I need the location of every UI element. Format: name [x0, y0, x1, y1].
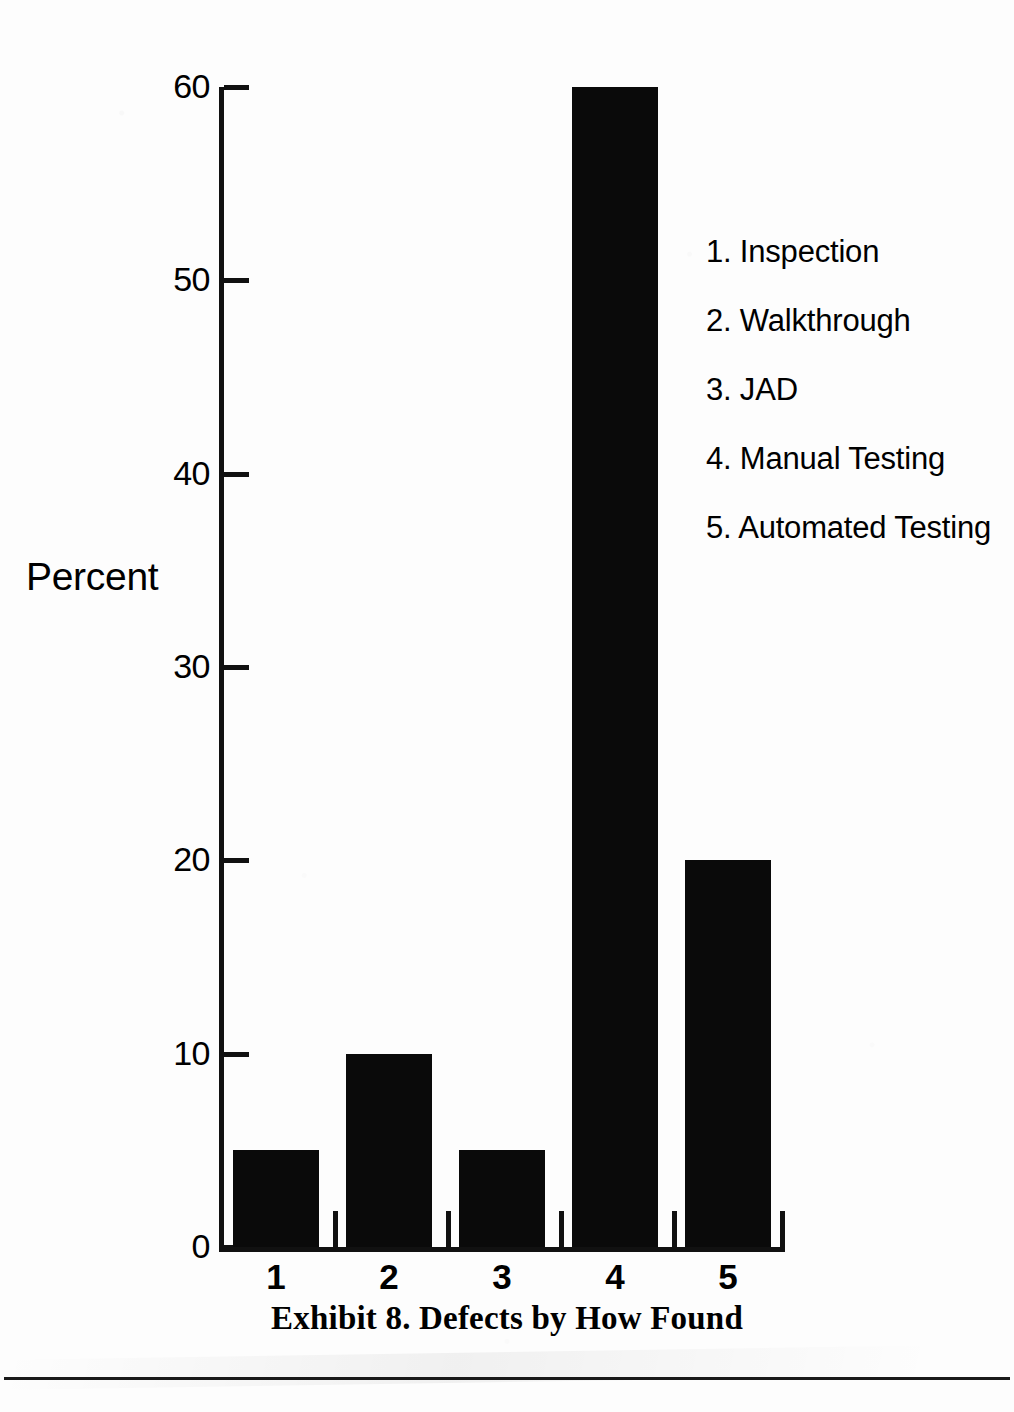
y-axis-tick-label-text: 10 — [138, 1036, 210, 1070]
y-axis-tick — [224, 472, 249, 477]
figure-caption: Exhibit 8. Defects by How Found — [0, 1298, 1014, 1338]
bar — [346, 1054, 432, 1247]
bar — [459, 1150, 545, 1247]
x-axis-tick-label: 2 — [344, 1258, 434, 1296]
y-axis-tick-label: 60 — [130, 69, 210, 103]
x-axis-line — [219, 1247, 785, 1252]
y-axis-tick — [224, 278, 249, 283]
page-footer-rule — [4, 1377, 1010, 1380]
x-axis-tick — [559, 1211, 564, 1248]
x-axis-tick-label: 4 — [570, 1258, 660, 1296]
x-axis-tick-label: 5 — [683, 1258, 773, 1296]
y-axis-tick-label-text: 40 — [138, 456, 210, 490]
x-axis-end-cap — [780, 1211, 785, 1251]
y-axis-tick-label: 10 — [130, 1036, 210, 1070]
legend-item: 1. Inspection — [706, 236, 996, 267]
y-axis-tick-label-text: 0 — [138, 1229, 210, 1263]
y-axis-tick-label-text: 20 — [138, 842, 210, 876]
y-axis-tick — [224, 85, 249, 90]
y-axis-tick-label: 0 — [130, 1229, 210, 1263]
x-axis-tick-label: 1 — [231, 1258, 321, 1296]
legend-item: 4. Manual Testing — [706, 443, 996, 474]
bar — [685, 860, 771, 1247]
x-axis-tick — [672, 1211, 677, 1248]
chart-legend: 1. Inspection2. Walkthrough3. JAD4. Manu… — [706, 236, 996, 581]
y-axis-tick-label: 40 — [130, 456, 210, 490]
bar — [233, 1150, 319, 1247]
y-axis-tick-label-text: 50 — [138, 262, 210, 296]
y-axis-tick — [224, 1052, 249, 1057]
scan-smudge — [0, 1344, 1014, 1390]
x-axis-tick-label: 3 — [457, 1258, 547, 1296]
x-axis-tick — [446, 1211, 451, 1248]
legend-item: 5. Automated Testing — [706, 512, 996, 543]
y-axis-tick-label: 30 — [130, 649, 210, 683]
y-axis-tick-label: 50 — [130, 262, 210, 296]
y-axis-tick-label-text: 30 — [138, 649, 210, 683]
y-axis-tick-label: 20 — [130, 842, 210, 876]
y-axis-tick — [224, 858, 249, 863]
y-axis-tick — [224, 665, 249, 670]
legend-item: 2. Walkthrough — [706, 305, 996, 336]
y-axis-tick-label-text: 60 — [138, 69, 210, 103]
bar-chart: 0102030405060 12345 Percent 1. Inspectio… — [0, 0, 1014, 1300]
bar — [572, 87, 658, 1247]
x-axis-tick — [333, 1211, 338, 1248]
y-axis-title: Percent — [26, 556, 206, 598]
legend-item: 3. JAD — [706, 374, 996, 405]
figure-page: 0102030405060 12345 Percent 1. Inspectio… — [0, 0, 1014, 1412]
